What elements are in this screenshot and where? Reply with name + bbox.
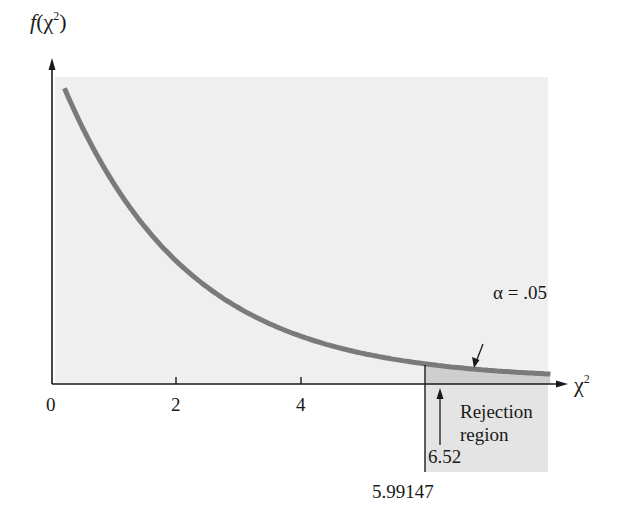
observed-statistic-label: 6.52 — [428, 447, 461, 466]
y-axis-arrow-icon — [49, 58, 56, 70]
rejection-label-line1: Rejection — [460, 400, 533, 423]
alpha-annotation: α = .05 — [493, 283, 547, 302]
x-label-sup: 2 — [584, 372, 590, 386]
critical-value-label: 5.99147 — [372, 482, 434, 501]
rejection-region-label: Rejection region — [460, 400, 533, 446]
x-tick-label-0: 0 — [46, 395, 56, 414]
x-tick-label-4: 4 — [296, 395, 306, 414]
x-axis-label: χ2 — [574, 373, 590, 396]
x-axis-arrow-icon — [556, 381, 568, 388]
x-label-chi: χ — [574, 372, 584, 397]
x-tick-label-2: 2 — [171, 395, 181, 414]
y-label-close: ) — [59, 9, 66, 34]
y-label-chi: (χ — [36, 9, 53, 34]
rejection-label-line2: region — [460, 423, 533, 446]
y-axis-label: f(χ2) — [30, 10, 67, 33]
